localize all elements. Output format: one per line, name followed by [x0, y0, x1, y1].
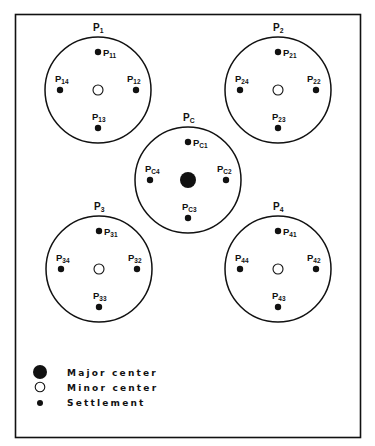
- settlement-label: P44: [235, 252, 249, 264]
- settlement-label: PC1: [193, 137, 208, 149]
- minor-center-icon: [35, 382, 45, 392]
- settlement-icon: [185, 139, 191, 145]
- settlement-label: PC4: [145, 163, 160, 175]
- settlement-icon: [96, 304, 102, 310]
- settlement-icon: [275, 228, 281, 234]
- regions: P1P11P12P13P14P2P21P22P23P24PCPC1PC2PC3P…: [45, 22, 331, 322]
- settlement-icon: [237, 87, 243, 93]
- region-p1: P1P11P12P13P14: [45, 22, 151, 143]
- region-label: P2: [273, 22, 284, 34]
- settlement-icon: [58, 266, 64, 272]
- settlement-icon: [95, 49, 101, 55]
- major-center-icon: [180, 172, 196, 188]
- region-pc: PCPC1PC2PC3PC4: [135, 112, 241, 233]
- settlement-label: P24: [235, 73, 249, 85]
- settlement-icon: [185, 215, 191, 221]
- settlement-icon: [237, 266, 243, 272]
- settlement-label: P42: [307, 252, 321, 264]
- settlement-icon: [275, 125, 281, 131]
- region-label: PC: [183, 112, 195, 124]
- settlement-label: P14: [55, 73, 69, 85]
- settlement-label: P12: [127, 73, 141, 85]
- region-label: P1: [93, 22, 104, 34]
- settlement-label: PC3: [182, 201, 197, 213]
- region-p4: P4P41P42P43P44: [225, 201, 331, 322]
- region-label: P4: [273, 201, 284, 213]
- legend-label-minor: Minor center: [67, 383, 158, 393]
- settlement-icon: [313, 266, 319, 272]
- minor-center-icon: [273, 85, 283, 95]
- settlement-label: P43: [272, 290, 286, 302]
- settlement-label: P32: [128, 252, 142, 264]
- minor-center-icon: [93, 85, 103, 95]
- settlement-icon: [95, 125, 101, 131]
- settlement-label: P11: [103, 47, 117, 59]
- settlement-label: P23: [272, 111, 286, 123]
- region-p3: P3P31P32P33P34: [46, 201, 152, 322]
- legend-label-major: Major center: [67, 368, 158, 378]
- settlement-icon: [313, 87, 319, 93]
- settlement-label: P41: [283, 226, 297, 238]
- major-center-icon: [33, 365, 47, 379]
- settlement-label: PC2: [217, 163, 232, 175]
- minor-center-icon: [94, 264, 104, 274]
- region-p2: P2P21P22P23P24: [225, 22, 331, 143]
- settlement-icon: [223, 177, 229, 183]
- settlement-label: P22: [307, 73, 321, 85]
- settlement-icon: [134, 266, 140, 272]
- minor-center-icon: [273, 264, 283, 274]
- settlement-icon: [37, 400, 43, 406]
- settlement-label: P13: [92, 111, 106, 123]
- settlement-icon: [275, 304, 281, 310]
- legend: Major center Minor center Settlement: [33, 365, 158, 408]
- central-place-diagram: P1P11P12P13P14P2P21P22P23P24PCPC1PC2PC3P…: [0, 0, 375, 446]
- legend-label-settlement: Settlement: [67, 398, 146, 408]
- settlement-icon: [57, 87, 63, 93]
- settlement-icon: [275, 49, 281, 55]
- settlement-icon: [96, 228, 102, 234]
- settlement-icon: [147, 177, 153, 183]
- settlement-label: P31: [104, 226, 118, 238]
- settlement-icon: [133, 87, 139, 93]
- settlement-label: P21: [283, 47, 297, 59]
- settlement-label: P34: [56, 252, 70, 264]
- region-label: P3: [94, 201, 105, 213]
- settlement-label: P33: [93, 290, 107, 302]
